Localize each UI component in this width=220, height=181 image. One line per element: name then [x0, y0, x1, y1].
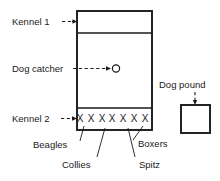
dog-pound-label: Dog pound	[159, 79, 205, 90]
spitz-leader-line	[128, 128, 135, 157]
spitz-label: Spitz	[139, 159, 160, 170]
kennel-1-label: Kennel 1	[12, 16, 50, 27]
beagles-leader-line	[80, 126, 84, 141]
kennel-2-x-marks: X X X X X X X	[77, 113, 149, 124]
kennel-2-label: Kennel 2	[12, 113, 50, 124]
dog-catcher-arrowhead	[106, 66, 111, 71]
diagram-canvas: Kennel 1 Dog catcher Kennel 2 X X X X X …	[0, 0, 220, 181]
dog-catcher-label: Dog catcher	[12, 63, 63, 74]
collies-label: Collies	[62, 159, 91, 170]
dog-catcher-token-circle	[112, 65, 119, 72]
x-mark: X	[109, 113, 116, 124]
kennel-diagram: Kennel 1 Dog catcher Kennel 2 X X X X X …	[0, 0, 220, 181]
collies-leader-line	[97, 128, 105, 157]
x-mark: X	[120, 113, 127, 124]
beagles-label: Beagles	[33, 139, 68, 150]
dog-pound-box	[181, 105, 210, 133]
x-mark: X	[88, 113, 95, 124]
x-mark: X	[142, 113, 149, 124]
x-mark: X	[99, 113, 106, 124]
x-mark: X	[131, 113, 138, 124]
x-mark: X	[77, 113, 84, 124]
boxers-label: Boxers	[138, 138, 168, 149]
